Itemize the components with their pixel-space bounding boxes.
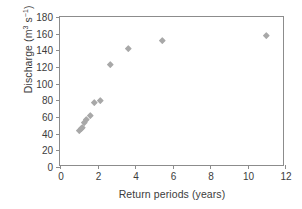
x-axis-title: Return periods (years) <box>59 188 285 200</box>
x-tick-10: 10 <box>248 165 249 169</box>
y-tick-80: 80 <box>56 100 60 101</box>
y-tick-180: 180 <box>56 17 60 18</box>
y-tick-60: 60 <box>56 117 60 118</box>
y-tick-20: 20 <box>56 150 60 151</box>
data-point <box>97 97 103 103</box>
x-tick-label-8: 8 <box>208 170 214 183</box>
y-tick-140: 140 <box>56 50 60 51</box>
y-tick-label-80: 80 <box>42 94 53 107</box>
x-tick-4: 4 <box>135 165 136 169</box>
plot-area: 020406080100120140160180 024681012 <box>59 16 284 166</box>
y-tick-label-100: 100 <box>36 78 53 91</box>
x-tick-label-6: 6 <box>171 170 177 183</box>
y-axis-title-sup-inverse: −1 <box>22 9 29 17</box>
y-tick-40: 40 <box>56 134 60 135</box>
data-point <box>159 37 165 43</box>
y-tick-160: 160 <box>56 34 60 35</box>
y-axis-title: Discharge (m3 s−1) <box>22 0 35 129</box>
x-tick-2: 2 <box>98 165 99 169</box>
y-axis-title-sup-cubic: 3 <box>22 26 29 30</box>
data-point <box>107 61 113 67</box>
x-tick-label-12: 12 <box>280 170 291 183</box>
x-tick-label-2: 2 <box>96 170 102 183</box>
y-tick-120: 120 <box>56 67 60 68</box>
x-tick-8: 8 <box>210 165 211 169</box>
x-tick-label-0: 0 <box>58 170 64 183</box>
x-tick-12: 12 <box>285 165 286 169</box>
y-axis-title-mid: s <box>22 17 34 25</box>
y-axis-title-text: Discharge (m <box>22 30 34 94</box>
y-tick-label-140: 140 <box>36 44 53 57</box>
y-tick-100: 100 <box>56 84 60 85</box>
y-tick-label-40: 40 <box>42 128 53 141</box>
x-tick-label-10: 10 <box>243 170 254 183</box>
x-tick-0: 0 <box>60 165 61 169</box>
x-tick-6: 6 <box>173 165 174 169</box>
y-tick-label-0: 0 <box>47 161 53 174</box>
y-tick-label-120: 120 <box>36 61 53 74</box>
y-tick-label-180: 180 <box>36 11 53 24</box>
y-tick-label-60: 60 <box>42 111 53 124</box>
y-tick-label-160: 160 <box>36 28 53 41</box>
data-point <box>263 32 269 38</box>
data-point <box>125 45 131 51</box>
x-tick-label-4: 4 <box>133 170 139 183</box>
chart-figure: Discharge (m3 s−1) 020406080100120140160… <box>0 0 302 209</box>
y-axis-title-close: ) <box>22 5 34 9</box>
y-tick-label-20: 20 <box>42 144 53 157</box>
